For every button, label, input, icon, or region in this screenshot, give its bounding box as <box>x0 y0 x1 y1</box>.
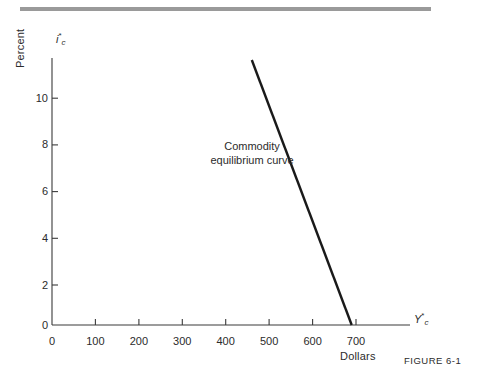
y-axis-caption: Percent <box>14 0 30 68</box>
y-tick-label: 6 <box>26 185 48 197</box>
commodity-equilibrium-curve <box>252 60 352 325</box>
x-axis-ticks <box>95 319 356 325</box>
x-tick-label: 500 <box>254 335 284 347</box>
x-tick-label: 700 <box>341 335 371 347</box>
x-tick-label: 0 <box>37 335 67 347</box>
x-tick-label: 200 <box>124 335 154 347</box>
plot-area <box>0 0 478 376</box>
x-tick-label: 100 <box>80 335 110 347</box>
y-tick-label: 0 <box>26 319 48 331</box>
figure-caption: FIGURE 6-1 <box>404 355 461 366</box>
y-tick-label: 4 <box>26 232 48 244</box>
x-variable-subscript: c <box>424 318 428 327</box>
curve-annotation-line-2: equilibrium curve <box>196 153 308 167</box>
figure-container: Percent Dollars i*c Y*c 0 2 4 6 8 10 0 1… <box>0 0 478 376</box>
y-variable-subscript: c <box>62 38 66 47</box>
x-tick-label: 600 <box>298 335 328 347</box>
x-axis-caption: Dollars <box>340 350 376 362</box>
x-axis-variable-label: Y*c <box>414 313 428 325</box>
y-axis-ticks <box>52 98 58 285</box>
y-tick-label: 8 <box>26 138 48 150</box>
x-tick-label: 400 <box>211 335 241 347</box>
curve-annotation-line-1: Commodity <box>196 139 308 153</box>
y-tick-label: 2 <box>26 279 48 291</box>
x-tick-label: 300 <box>167 335 197 347</box>
curve-annotation: Commodity equilibrium curve <box>196 139 308 167</box>
y-axis-variable-label: i*c <box>56 33 66 45</box>
y-tick-label: 10 <box>26 92 48 104</box>
